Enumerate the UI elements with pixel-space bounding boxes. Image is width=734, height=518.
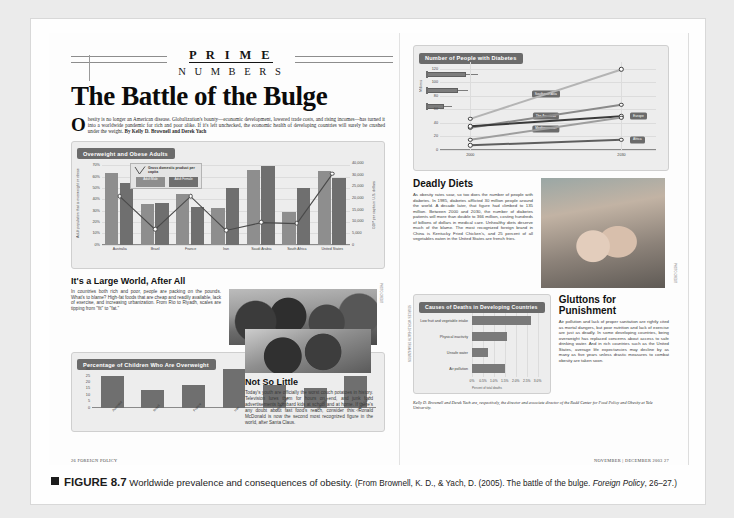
chart-causes-xlabel: 0.5% [479,379,487,383]
chart-adults-xlabel: Saudi Arabia [251,247,271,251]
figure-caption: FIGURE 8.7 Worldwide prevalence and cons… [51,475,687,491]
chart-title-causes: Causes of Deaths in Developing Countries [419,302,545,313]
chart-adults-y2tick: 0 [352,243,354,247]
masthead-wordmark: P R I M E N U M B E R S [167,45,295,77]
chart-adults-ytick: 30% [92,209,100,213]
chart-diabetes-ytick: 100 [432,80,438,84]
chart-causes-row: Air pollution [472,364,540,374]
photo-beachgoers [541,178,665,288]
chart-adults-xlabel: South Africa [287,247,306,251]
deadly-diets-column: Deadly Diets As obesity rates soar, so t… [413,178,533,288]
heading-deadly-diets: Deadly Diets [413,178,533,189]
folio-right: NOVEMBER | DECEMBER 2003 27 [594,458,669,463]
right-page: Number of People with Diabetes Millions [401,33,689,465]
chart-overweight-obese-adults: Overweight and Obese Adults Adult popula… [71,141,385,269]
caption-title: Worldwide prevalence and consequences of… [129,477,352,488]
photo-children [245,329,371,373]
chart-diabetes-ytick: 20 [434,134,438,138]
chart-causes-source: SOURCES: WORLD HEALTH ORGANIZATION [407,305,410,362]
chart-adults-y2tick: 5,000 [352,231,362,235]
chart-adults-gdp-point [117,194,122,199]
drop-cap: O [71,117,86,132]
photo-children-image [245,329,371,373]
chart-diabetes-lines [440,62,656,150]
chart-causes-bar [472,316,531,326]
chart-diabetes-ytick: 0 [436,148,438,152]
chart-causes-xlabel: 2.5% [523,379,531,383]
chart-adults-xlabel: Iran [223,247,229,251]
chart-adults-y2tick: 40,000 [352,161,364,165]
author-bios: Kelly D. Brownell and Derek Yach are, re… [413,400,669,410]
chart-causes-bar [472,348,488,358]
photo-beachgoers-image [541,178,665,288]
article-headline: The Battle of the Bulge [71,83,385,110]
article-byline: By Kelly D. Brownell and Derek Yach [125,128,207,134]
masthead-vertical-rule [89,55,90,81]
chart-diabetes-plot: 02040608010012020002030Southeast AsiaThe… [440,62,656,150]
chart-adults-y2tick: 30,000 [352,173,364,177]
chart-children-ytick: 0 [88,406,90,410]
chart-adults-ytick: 10% [92,231,100,235]
chart-adults-y2tick: 10,000 [352,219,364,223]
chart-diabetes-xlabel: 2030 [617,153,625,157]
chart-diabetes-xlabel: 2000 [466,153,474,157]
chart-diabetes-line-southeast-asia [470,69,621,118]
article-lede: Obesity is no longer an American disease… [71,116,385,135]
figure-sheet: P R I M E N U M B E R S The Battle of th… [30,18,706,505]
figure-page: P R I M E N U M B E R S The Battle of th… [0,0,734,518]
chart-causes-axis-note: Percent of total deaths [472,386,502,390]
chart-adults-ytick: 40% [92,197,100,201]
chart-children-ytick: 25 [86,374,90,378]
chart-causes-row: Unsafe water [472,348,540,358]
chart-causes-of-deaths: Causes of Deaths in Developing Countries… [413,294,551,394]
section-heading-not-so-little: Not So Little [245,377,373,387]
chart-diabetes-gridline: 0 [440,150,656,151]
chart-diabetes-ytick: 80 [434,94,438,98]
chart-children-ytick: 10 [86,393,90,397]
chart-people-with-diabetes: Number of People with Diabetes Millions [413,45,669,171]
chart-causes-xlabel: 3.0% [534,379,542,383]
page-gutter [399,33,400,465]
chart-causes-plot: Percent of total deaths 0%0.5%1.0%1.5%2.… [472,313,540,377]
caption-source-lead: (From Brownell, K. D., & Yach, D. (2005)… [355,479,593,488]
chart-adults-gdp-point [259,220,264,225]
body-gluttons: Air pollution and lack of proper sanitat… [559,319,669,363]
chart-adults-plot: 0%10%20%30%40%50%60%70%05,00010,00015,00… [102,160,350,245]
masthead-numbers: N U M B E R S [167,65,295,78]
chart-adults-y2-axis-label: GDP per capita in U.S. dollars [372,162,381,248]
chart-children-bar [223,369,246,407]
chart-causes-row: Physical inactivity [472,332,540,342]
caption-figure-label: FIGURE 8.7 [64,476,127,488]
chart-adults-gridline: 0% [102,245,350,246]
chart-adults-gdp-point [153,227,158,232]
chart-adults-y2tick: 25,000 [352,184,364,188]
chart-causes-category-label: Unsafe water [418,351,468,355]
chart-adults-xlabel: France [185,247,196,251]
chart-adults-gdp-point [330,171,335,176]
chart-diabetes-y-axis-label: Millions [419,80,423,92]
masthead-prime: P R I M E [189,48,273,63]
chart-causes-xlabel: 0% [470,379,475,383]
magazine-spread: P R I M E N U M B E R S The Battle of th… [49,33,689,465]
chart-causes-xlabel: 1.5% [501,379,509,383]
chart-causes-bar [472,332,507,342]
chart-adults-ytick: 50% [92,186,100,190]
not-so-little-block: Not So Little Today's youth are official… [245,329,373,425]
chart-children-ytick: 5 [88,399,90,403]
left-page: P R I M E N U M B E R S The Battle of th… [49,33,399,465]
chart-children-ytick: 20 [86,380,90,384]
caption-bullet-icon [51,477,59,485]
caption-source-tail: , 26–27.) [645,479,677,488]
chart-diabetes-ytick: 120 [432,67,438,71]
bottom-row: Causes of Deaths in Developing Countries… [413,294,669,394]
chart-adults-gdp-point [224,228,229,233]
chart-adults-y-axis-label: Adult population that is overweight or o… [76,158,85,248]
chart-adults-ytick: 70% [92,163,100,167]
heading-gluttons: Gluttons for Punishment [559,294,669,316]
chart-causes-xlabel: 2.0% [512,379,520,383]
chart-adults-y2tick: 20,000 [352,196,364,200]
chart-adults-ytick: 60% [92,175,100,179]
chart-causes-category-label: Physical inactivity [418,335,468,339]
chart-adults-gdp-point [188,194,193,199]
photo-credit-left: PHOTO CREDIT [379,283,382,373]
